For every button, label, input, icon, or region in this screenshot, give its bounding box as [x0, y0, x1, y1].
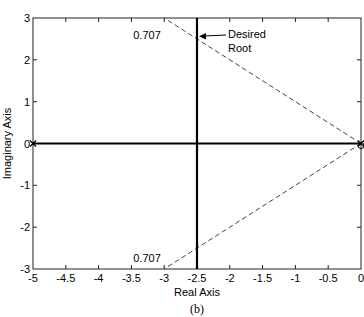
x-tick-label: -1.5	[253, 272, 272, 284]
root-locus-chart: -5 -4.5 -4 -3.5 -3 -2.5 -2 -1.5 -1 -0.5 …	[0, 0, 364, 317]
x-tick-label: -4	[94, 272, 104, 284]
x-axis-label: Real Axis	[174, 286, 220, 298]
y-axis-label: Imaginary Axis	[1, 107, 13, 179]
figure-caption: (b)	[190, 302, 204, 316]
x-tick-label: -0.5	[319, 272, 338, 284]
damping-label-upper: 0.707	[133, 29, 161, 41]
y-tick-label: 2	[24, 54, 30, 66]
y-tick-label: -2	[20, 221, 30, 233]
y-tick-labels: 3 2 1 0 -1 -2 -3	[20, 12, 30, 275]
desired-root-label-line2: Root	[228, 42, 251, 54]
y-tick-label: 1	[24, 96, 30, 108]
x-tick-label: -2	[225, 272, 235, 284]
x-tick-labels: -5 -4.5 -4 -3.5 -3 -2.5 -2 -1.5 -1 -0.5 …	[28, 272, 364, 284]
y-tick-label: 0	[24, 138, 30, 150]
desired-root-label-line1: Desired	[228, 28, 266, 40]
x-tick-label: -3	[159, 272, 169, 284]
y-tick-label: -3	[20, 263, 30, 275]
x-tick-label: -2.5	[188, 272, 207, 284]
desired-root-arrow	[199, 33, 226, 39]
y-tick-label: -1	[20, 179, 30, 191]
x-tick-label: -1	[291, 272, 301, 284]
y-tick-label: 3	[24, 12, 30, 24]
damping-line-lower	[164, 144, 361, 270]
x-tick-label: -4.5	[56, 272, 75, 284]
x-tick-label: 0	[358, 272, 364, 284]
x-tick-label: -3.5	[122, 272, 141, 284]
damping-label-lower: 0.707	[133, 252, 161, 264]
